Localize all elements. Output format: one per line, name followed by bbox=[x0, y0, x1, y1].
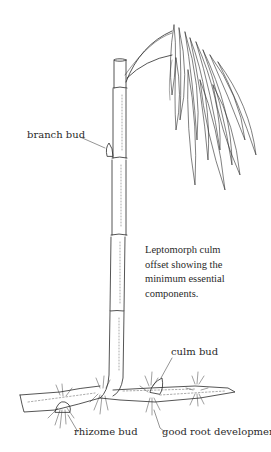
caption-line: components. bbox=[145, 287, 225, 302]
caption-line: minimum essential bbox=[145, 272, 225, 287]
caption-line: offset showing the bbox=[145, 258, 225, 273]
caption-line: Leptomorph culm bbox=[145, 243, 225, 258]
culm bbox=[100, 59, 127, 398]
label-rhizome-bud: rhizome bud bbox=[74, 426, 138, 438]
label-branch-bud: branch bud bbox=[27, 129, 85, 141]
culm-bud bbox=[150, 358, 172, 394]
bamboo-illustration bbox=[0, 0, 271, 452]
branches bbox=[125, 31, 172, 82]
leaves bbox=[169, 25, 256, 190]
label-culm-bud: culm bud bbox=[171, 346, 218, 358]
figure-caption: Leptomorph culm offset showing the minim… bbox=[145, 243, 225, 301]
roots bbox=[48, 372, 208, 432]
label-good-root-development: good root development bbox=[162, 426, 271, 438]
rhizome bbox=[20, 386, 235, 412]
